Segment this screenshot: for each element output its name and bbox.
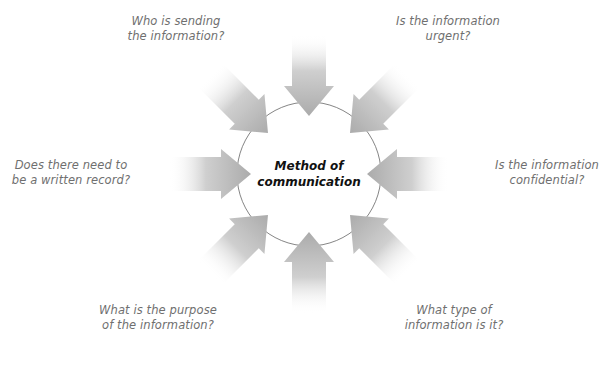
question-is-urgent: Is the information urgent? xyxy=(388,14,508,44)
question-line1: Is the information xyxy=(388,14,508,29)
question-line1: What is the purpose xyxy=(92,303,224,318)
arrow-top-right-icon xyxy=(332,57,425,150)
arrow-top-left-icon xyxy=(192,57,285,150)
arrow-bottom-icon xyxy=(284,232,334,314)
question-who-is-sending: Who is sending the information? xyxy=(120,14,232,44)
arrow-top-icon xyxy=(284,34,334,116)
question-line1: Is the information xyxy=(488,158,606,173)
question-line2: information is it? xyxy=(400,318,508,333)
question-line1: Does there need to xyxy=(8,158,134,173)
question-line2: confidential? xyxy=(488,173,606,188)
question-line1: What type of xyxy=(400,303,508,318)
question-information-type: What type of information is it? xyxy=(400,303,508,333)
arrow-right-icon xyxy=(367,149,449,199)
question-line2: urgent? xyxy=(388,29,508,44)
question-purpose: What is the purpose of the information? xyxy=(92,303,224,333)
question-is-confidential: Is the information confidential? xyxy=(488,158,606,188)
question-line1: Who is sending xyxy=(120,14,232,29)
arrow-left-icon xyxy=(169,149,251,199)
question-line2: the information? xyxy=(120,29,232,44)
center-label-line1: Method of xyxy=(249,158,369,174)
center-label-method-of-communication: Method of communication xyxy=(249,158,369,190)
arrow-bottom-right-icon xyxy=(332,197,425,290)
arrow-bottom-left-icon xyxy=(192,197,285,290)
diagram-canvas: Method of communication Who is sending t… xyxy=(0,0,607,365)
question-line2: of the information? xyxy=(92,318,224,333)
question-written-record: Does there need to be a written record? xyxy=(8,158,134,188)
question-line2: be a written record? xyxy=(8,173,134,188)
center-label-line2: communication xyxy=(249,174,369,190)
